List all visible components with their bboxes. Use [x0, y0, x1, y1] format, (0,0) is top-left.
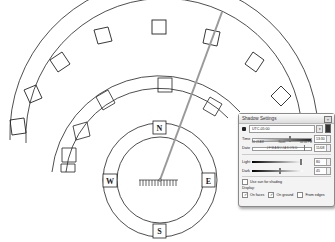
dark-label: Dark: [242, 169, 252, 173]
light-label: Light: [242, 160, 252, 164]
expand-panel-icon[interactable]: [325, 124, 331, 133]
time-row: Time 06:43 AM Noon 04:46 PM 13:30: [242, 135, 331, 143]
date-input[interactable]: 11/08: [314, 144, 331, 152]
compass-south-label: S: [157, 227, 162, 236]
time-slider[interactable]: 06:43 AM Noon 04:46 PM: [252, 136, 312, 143]
dark-row: Dark 45: [242, 167, 331, 175]
timezone-row: UTC-05:00 ▾: [242, 125, 331, 132]
use-sun-row: Use sun for shading: [242, 179, 331, 185]
dark-input[interactable]: 45: [314, 167, 331, 175]
shadow-toggle-icon[interactable]: [242, 127, 246, 131]
light-input[interactable]: 80: [314, 158, 331, 166]
on-faces-label: On faces: [250, 193, 264, 197]
light-row: Light 80: [242, 158, 331, 166]
light-slider[interactable]: [252, 159, 312, 166]
shadow-settings-dialog[interactable]: Shadow Settings × UTC-05:00 ▾ Time 06:43…: [238, 113, 335, 207]
option-on-faces[interactable]: ✓ On faces: [242, 192, 264, 198]
center-model-comb: [139, 179, 178, 186]
compass-north-label: N: [157, 124, 163, 133]
on-ground-checkbox[interactable]: ✓: [268, 192, 274, 198]
chevron-down-icon[interactable]: ▾: [316, 125, 323, 133]
date-slider[interactable]: J F M A M J J A S O N D: [252, 145, 312, 152]
time-label: Time: [242, 137, 252, 141]
dialog-title: Shadow Settings: [242, 116, 276, 121]
time-input[interactable]: 13:30: [314, 135, 331, 143]
close-icon[interactable]: ×: [324, 116, 332, 123]
compass-east-label: E: [206, 177, 211, 186]
from-edges-checkbox[interactable]: [297, 192, 303, 198]
display-label: Display:: [242, 186, 255, 190]
use-sun-label: Use sun for shading: [250, 180, 282, 184]
option-from-edges[interactable]: From edges: [297, 192, 324, 198]
display-options: ✓ On faces ✓ On ground From edges: [242, 192, 331, 198]
dark-slider[interactable]: [252, 168, 312, 175]
use-sun-checkbox[interactable]: [242, 179, 248, 185]
date-row: Date J F M A M J J A S O N D 11/08: [242, 144, 331, 152]
compass-west-label: W: [106, 177, 114, 186]
on-faces-checkbox[interactable]: ✓: [242, 192, 248, 198]
month-ticks: J F M A M J J A S O N D: [267, 146, 297, 150]
from-edges-label: From edges: [305, 193, 324, 197]
on-ground-label: On ground: [276, 193, 293, 197]
display-row: Display:: [242, 186, 331, 190]
option-on-ground[interactable]: ✓ On ground: [268, 192, 293, 198]
sun-direction-line: [160, 12, 222, 180]
date-label: Date: [242, 146, 252, 150]
timezone-select[interactable]: UTC-05:00: [249, 125, 315, 133]
dialog-titlebar[interactable]: Shadow Settings ×: [239, 114, 334, 124]
